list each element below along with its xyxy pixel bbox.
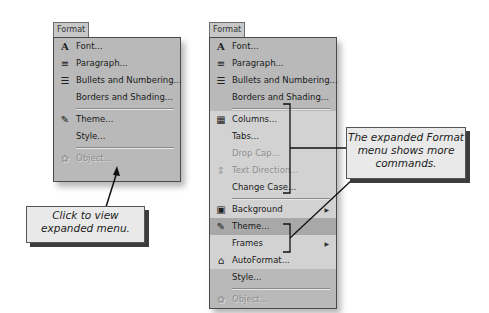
callout-expanded-menu: The expanded Format menu shows more comm… <box>346 127 466 179</box>
callout-click-to-expand: Click to view expanded menu. <box>26 206 145 243</box>
